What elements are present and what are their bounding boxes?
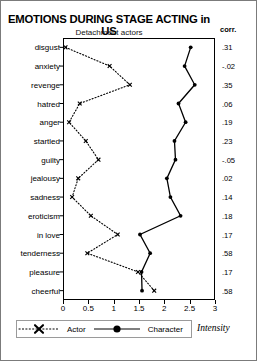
data-point-character [193, 83, 197, 87]
corr-value: -.02 [222, 62, 235, 71]
category-label: eroticism [4, 211, 60, 220]
corr-value: .17 [222, 230, 233, 239]
data-point-actor [84, 139, 88, 143]
corr-value: .14 [222, 193, 233, 202]
legend-item-actor: Actor [17, 323, 92, 335]
series-lines [63, 38, 215, 300]
category-label: startled [4, 136, 60, 145]
corr-value: .17 [222, 267, 233, 276]
category-label: disgust [4, 43, 60, 52]
data-point-character [169, 195, 173, 199]
data-point-character [177, 102, 181, 106]
chart-legend: Actor Character [16, 320, 192, 338]
data-point-character [184, 120, 188, 124]
data-point-character [138, 233, 142, 237]
category-label: anxiety [4, 62, 60, 71]
data-point-character [140, 289, 144, 293]
x-axis-tick-labels: 00.511.522.53 [1, 304, 257, 316]
category-label: hatred [4, 99, 60, 108]
x-axis-title: Intensity [197, 323, 230, 333]
legend-label-character: Character [148, 325, 183, 334]
chart-subtitle: Detachment actors [1, 28, 217, 37]
corr-value: .58 [222, 286, 233, 295]
x-tick-label: 3 [200, 304, 230, 313]
data-point-character [189, 45, 193, 49]
data-point-character [179, 214, 183, 218]
actor-legend-swatch [17, 323, 61, 335]
corr-value: .35 [222, 80, 233, 89]
data-point-actor [70, 195, 74, 199]
category-label: guilty [4, 155, 60, 164]
corr-value: .06 [222, 99, 233, 108]
corr-value: .02 [222, 174, 233, 183]
data-point-actor [116, 233, 120, 237]
plot-area [63, 38, 215, 300]
corr-column-values: .31-.02.35.06.19.23-.05.02.14.18.17.58.1… [220, 38, 257, 300]
corr-value: .18 [222, 211, 233, 220]
data-point-character [173, 139, 177, 143]
data-point-actor [97, 158, 101, 162]
data-point-character [165, 176, 169, 180]
legend-label-actor: Actor [67, 325, 86, 334]
data-point-character [148, 251, 152, 255]
data-point-actor [136, 270, 140, 274]
legend-item-character: Character [92, 323, 189, 335]
corr-value: .58 [222, 249, 233, 258]
data-point-actor [67, 120, 71, 124]
category-axis-labels: disgustanxietyrevengehatredangerstartled… [1, 38, 60, 300]
data-point-character [140, 270, 144, 274]
category-label: revenge [4, 80, 60, 89]
corr-value: -.05 [222, 155, 235, 164]
data-point-actor [128, 83, 132, 87]
category-label: in love [4, 230, 60, 239]
corr-value: .31 [222, 43, 233, 52]
corr-value: .23 [222, 136, 233, 145]
data-point-actor [89, 214, 93, 218]
data-point-actor [152, 289, 156, 293]
category-label: tenderness [4, 249, 60, 258]
series-line-actor [66, 47, 155, 290]
series-line-character [140, 47, 195, 290]
category-label: pleasure [4, 267, 60, 276]
figure-frame: EMOTIONS DURING STAGE ACTING in US Detac… [0, 0, 257, 361]
corr-value: .19 [222, 118, 233, 127]
category-label: cheerful [4, 286, 60, 295]
category-label: sadness [4, 193, 60, 202]
data-point-character [174, 158, 178, 162]
circle-marker-icon [113, 325, 120, 332]
data-point-character [183, 64, 187, 68]
category-label: anger [4, 118, 60, 127]
category-label: jealousy [4, 174, 60, 183]
character-legend-swatch [92, 323, 142, 335]
corr-column-header: corr. [220, 25, 256, 34]
